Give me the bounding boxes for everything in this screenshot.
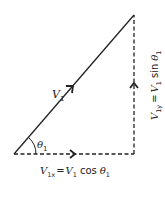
vector-v1-line bbox=[14, 15, 134, 154]
angle-arc bbox=[28, 137, 36, 154]
angle-label: θ1 bbox=[37, 139, 48, 153]
vector-label: V1 bbox=[52, 88, 64, 103]
vector-diagram: V1 θ1 V1x=V1cosθ1 V1y=V1sinθ1 bbox=[0, 0, 165, 197]
y-component-label: V1y=V1sinθ1 bbox=[149, 51, 163, 120]
x-component-label: V1x=V1cosθ1 bbox=[40, 165, 110, 179]
